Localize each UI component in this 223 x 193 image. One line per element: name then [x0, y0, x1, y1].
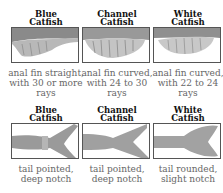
- panel-title: BlueCatfish: [11, 10, 81, 26]
- tail-caption: tail pointed, deep notch: [78, 164, 156, 184]
- anal-fin-image: [153, 27, 221, 63]
- panel-title: WhiteCatfish: [153, 10, 223, 26]
- blue-catfish-tail-panel: BlueCatfish tail pointed, deep notch: [11, 106, 81, 122]
- white-catfish-tail-panel: WhiteCatfish tail rounded, slight notch: [153, 106, 223, 122]
- panel-title: ChannelCatfish: [82, 106, 152, 122]
- panel-title: ChannelCatfish: [82, 10, 152, 26]
- white-catfish-anal-fin-panel: WhiteCatfish anal fin curved, with 22 to…: [153, 10, 223, 26]
- channel-catfish-tail-panel: ChannelCatfish tail pointed, deep notch: [82, 106, 152, 122]
- anal-fin-caption: anal fin curved, with 24 to 30 rays: [78, 68, 156, 98]
- anal-fin-image: [82, 27, 150, 63]
- anal-fin-caption: anal fin straight, with 30 or more rays: [7, 68, 85, 98]
- tail-caption: tail rounded, slight notch: [149, 164, 223, 184]
- channel-catfish-anal-fin-panel: ChannelCatfish anal fin curved, with 24 …: [82, 10, 152, 26]
- panel-title: BlueCatfish: [11, 106, 81, 122]
- panel-title: WhiteCatfish: [153, 106, 223, 122]
- blue-catfish-anal-fin-panel: BlueCatfish anal fin straight, with 30 o…: [11, 10, 81, 26]
- tail-caption: tail pointed, deep notch: [7, 164, 85, 184]
- anal-fin-caption: anal fin curved, with 22 to 24 rays: [149, 68, 223, 98]
- tail-image: [11, 123, 79, 159]
- tail-image: [82, 123, 150, 159]
- tail-image: [153, 123, 221, 159]
- anal-fin-image: [11, 27, 79, 63]
